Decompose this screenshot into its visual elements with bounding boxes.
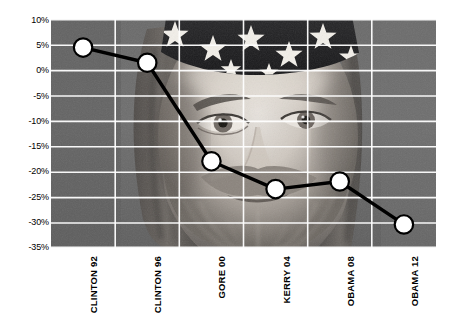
data-point-marker[interactable] <box>331 172 349 190</box>
plot-area <box>51 19 436 248</box>
data-point-marker[interactable] <box>202 152 220 170</box>
y-tick-label: 5% <box>5 41 49 50</box>
x-tick-label: OBAMA 12 <box>409 256 420 306</box>
data-point-marker[interactable] <box>138 54 156 72</box>
x-tick-label: KERRY 04 <box>281 256 292 304</box>
x-tick-label: GORE 00 <box>216 256 227 299</box>
data-point-marker[interactable] <box>395 215 413 233</box>
y-tick-label: -25% <box>5 192 49 201</box>
y-tick-label: -30% <box>5 217 49 226</box>
y-tick-label: -35% <box>5 243 49 252</box>
data-series <box>51 19 436 248</box>
y-tick-label: -15% <box>5 142 49 151</box>
y-tick-label: 0% <box>5 66 49 75</box>
y-tick-label: -5% <box>5 91 49 100</box>
series-markers <box>74 38 413 233</box>
data-point-marker[interactable] <box>266 180 284 198</box>
y-tick-label: 10% <box>5 15 49 24</box>
x-tick-label: OBAMA 08 <box>345 256 356 306</box>
x-axis: CLINTON 92CLINTON 96GORE 00KERRY 04OBAMA… <box>51 248 436 334</box>
y-tick-label: -10% <box>5 116 49 125</box>
x-tick-label: CLINTON 96 <box>152 256 163 313</box>
chart-container: 10%5%0%-5%-10%-15%-20%-25%-30%-35% <box>0 0 456 334</box>
x-tick-label: CLINTON 92 <box>88 256 99 313</box>
y-axis: 10%5%0%-5%-10%-15%-20%-25%-30%-35% <box>0 0 49 334</box>
data-point-marker[interactable] <box>74 38 92 56</box>
y-tick-label: -20% <box>5 167 49 176</box>
series-line <box>83 48 404 225</box>
